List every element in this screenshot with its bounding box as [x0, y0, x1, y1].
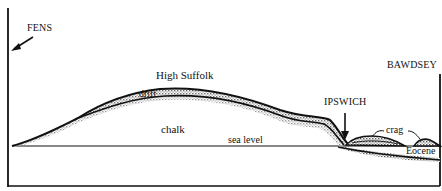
- label-ipswich: IPSWICH: [324, 97, 367, 107]
- label-high-suffolk: High Suffolk: [156, 70, 214, 81]
- label-chalk: chalk: [161, 124, 185, 135]
- crag-brace-right: [408, 131, 420, 139]
- label-sea-level: sea level: [228, 135, 263, 145]
- chalk-surface-shade: [12, 96, 344, 147]
- label-bawdsey: BAWDSEY: [387, 60, 437, 70]
- label-fens: FENS: [27, 23, 52, 33]
- label-crag: crag: [386, 125, 403, 135]
- label-eocene: Eocene: [406, 146, 435, 156]
- geological-cross-section: FENS BAWDSEY High Suffolk drift chalk se…: [0, 0, 442, 191]
- label-drift: drift: [139, 89, 156, 99]
- cross-section-drawing: [0, 0, 442, 191]
- fens-arrow-head: [11, 43, 21, 51]
